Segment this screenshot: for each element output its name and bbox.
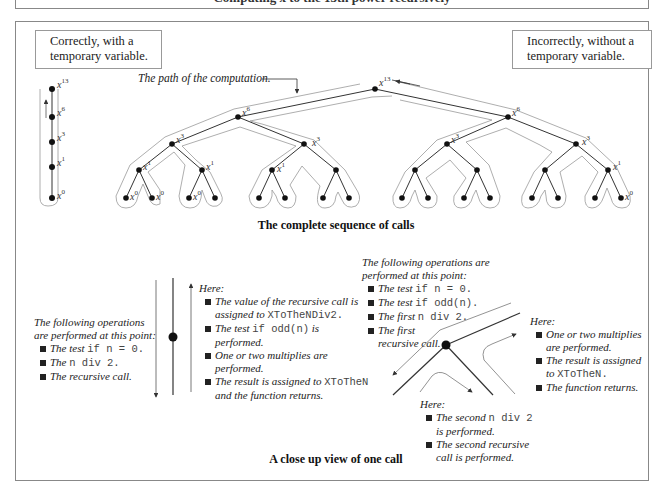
note-item: The test if n = 0. <box>368 282 490 296</box>
tree-leaf-label-3: x0 <box>192 189 201 202</box>
note-item: The test if odd(n). <box>368 296 490 310</box>
tree-l3-label-2: x1 <box>205 159 214 172</box>
note-item: The test if n = 0. <box>40 342 156 356</box>
computation-path-outline <box>116 84 392 208</box>
note-item: One or two multiplies are performed. <box>536 328 645 354</box>
tree-l1-right-label: x6 <box>511 105 520 118</box>
chain-node-3: x3 <box>56 130 65 143</box>
tree-leaf-label-4: x0 <box>624 189 633 202</box>
tree-root-label: x13 <box>378 75 391 88</box>
note-right-after: Here: One or two multiplies are performe… <box>530 315 645 394</box>
tree-l3-label-3: x1 <box>276 161 285 174</box>
note-intro: Here: <box>420 398 538 411</box>
linear-chain <box>40 86 58 206</box>
note-item: The first recursive call. <box>368 324 450 350</box>
note-intro-line: The following operations are <box>362 256 490 269</box>
note-item: The function returns. <box>536 381 645 394</box>
note-intro-line: are performed at this point: <box>34 329 156 342</box>
tree-nodes <box>123 86 624 201</box>
note-item: The second n div 2 is performed. <box>426 411 538 438</box>
note-item: The result is assigned to XToTheN and th… <box>205 375 369 402</box>
chain-node-0: x0 <box>56 188 65 201</box>
note-right-middle: Here: The second n div 2 is performed. T… <box>420 398 538 464</box>
chain-node-6: x6 <box>56 105 65 118</box>
note-intro: Here: <box>530 315 645 328</box>
tree-l1-left-label: x6 <box>241 105 250 118</box>
tree-l3-label-4: x1 <box>612 159 621 172</box>
caption-close-up: A close up view of one call <box>0 452 672 467</box>
note-item: The second recursive call is performed. <box>426 438 538 464</box>
note-item: The result is assigned to XToTheN. <box>536 354 645 381</box>
caption-complete-sequence: The complete sequence of calls <box>0 218 672 233</box>
note-item: The value of the recursive call is assig… <box>205 295 369 322</box>
chain-node-13: x13 <box>56 77 69 90</box>
tree-l2-label-1: x3 <box>175 132 184 145</box>
note-intro-line: performed at this point: <box>362 269 490 282</box>
tree-leaf-label-2: x0 <box>155 189 164 202</box>
note-item: One or two multiplies are performed. <box>205 349 369 375</box>
tree-l2-label-3: x3 <box>450 132 459 145</box>
note-intro-line: The following operations <box>34 316 156 329</box>
note-right-before: The following operations are performed a… <box>362 256 490 350</box>
note-item: The test if odd(n) is performed. <box>205 322 369 349</box>
recursion-diagram: x13 x6 x3 x1 x0 <box>0 0 672 502</box>
note-item: The first n div 2. <box>368 310 490 324</box>
chain-node-1: x1 <box>56 155 65 168</box>
note-item: The recursive call. <box>40 370 156 383</box>
note-left-after: Here: The value of the recursive call is… <box>199 282 369 402</box>
note-intro: Here: <box>199 282 369 295</box>
closeup-linear <box>156 278 191 397</box>
tree-l2-label-2: x3 <box>311 135 320 148</box>
tree-l2-label-4: x3 <box>581 134 590 147</box>
note-item: The n div 2. <box>40 356 156 370</box>
tree-edges <box>126 89 621 198</box>
note-left-before: The following operations are performed a… <box>34 316 156 383</box>
